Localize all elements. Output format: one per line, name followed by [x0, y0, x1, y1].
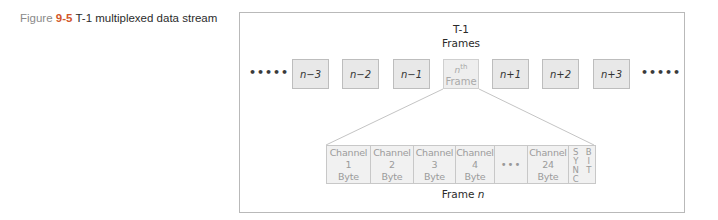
- channel-2-cell: Channel 2 Byte: [371, 146, 414, 183]
- cell-label: Channel: [529, 147, 567, 159]
- cell-unit: Byte: [338, 171, 359, 183]
- bit-letters: B I T: [586, 148, 592, 175]
- cell-number: 24: [542, 159, 554, 171]
- expansion-line-right: [479, 89, 594, 145]
- frame-channel-table: Channel 1 Byte Channel 2 Byte Channel 3 …: [326, 145, 596, 184]
- cell-number: 3: [432, 159, 438, 171]
- cell-unit: Byte: [382, 171, 403, 183]
- channels-ellipsis-cell: •••: [495, 146, 528, 183]
- figure-root: Figure 9-5 T-1 multiplexed data stream T…: [0, 0, 718, 220]
- bit-letter: T: [586, 166, 591, 175]
- channel-24-cell: Channel 24 Byte: [528, 146, 569, 183]
- channel-3-cell: Channel 3 Byte: [414, 146, 456, 183]
- cell-number: 1: [346, 159, 352, 171]
- expansion-line-left: [326, 89, 443, 145]
- frame-n-prefix: Frame: [442, 188, 475, 200]
- cell-number: 2: [389, 159, 395, 171]
- channel-4-cell: Channel 4 Byte: [456, 146, 495, 183]
- cell-label: Channel: [373, 147, 411, 159]
- frame-n-label: Frame n: [438, 188, 488, 200]
- cell-number: 4: [472, 159, 478, 171]
- cell-label: Channel: [330, 147, 368, 159]
- cell-label: Channel: [456, 147, 494, 159]
- cell-unit: Byte: [465, 171, 486, 183]
- expansion-lines: [0, 0, 718, 220]
- sync-letter: C: [573, 175, 579, 184]
- sync-letters: S Y N C: [573, 148, 579, 184]
- sync-bit-cell: S Y N C B I T: [569, 146, 595, 183]
- cell-label: Channel: [416, 147, 454, 159]
- cell-unit: Byte: [538, 171, 559, 183]
- frame-n-var: n: [478, 188, 485, 200]
- channel-1-cell: Channel 1 Byte: [327, 146, 371, 183]
- cell-unit: Byte: [424, 171, 445, 183]
